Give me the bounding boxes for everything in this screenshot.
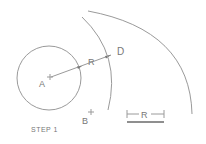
point-a-label: A — [39, 79, 45, 89]
circle-a — [17, 46, 81, 110]
radius-label: R — [88, 57, 95, 67]
scale-bar-label: R — [141, 110, 148, 120]
point-b-marker — [88, 109, 94, 115]
point-d-label: D — [117, 46, 124, 57]
point-b-label: B — [82, 116, 88, 126]
outer-arc — [88, 11, 192, 114]
construction-diagram: A R D B R STEP 1 — [0, 0, 206, 144]
step-caption: STEP 1 — [31, 126, 58, 133]
